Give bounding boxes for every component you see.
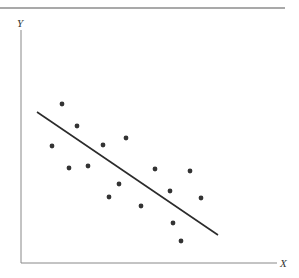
data-point	[124, 136, 129, 141]
data-point	[50, 144, 55, 149]
y-axis-label: Y	[17, 17, 25, 29]
data-point	[188, 169, 193, 174]
x-axis-label: X	[279, 257, 288, 269]
scatter-plot: Y X	[0, 0, 299, 278]
data-point	[179, 239, 184, 244]
data-point	[153, 167, 158, 172]
regression-line	[37, 112, 218, 235]
data-point	[75, 124, 80, 129]
data-point	[171, 221, 176, 226]
data-point	[199, 196, 204, 201]
data-point	[139, 204, 144, 209]
data-point	[67, 166, 72, 171]
data-point	[107, 195, 112, 200]
data-point	[60, 102, 65, 107]
data-point	[101, 143, 106, 148]
data-point	[86, 164, 91, 169]
data-point	[168, 189, 173, 194]
data-point	[117, 182, 122, 187]
